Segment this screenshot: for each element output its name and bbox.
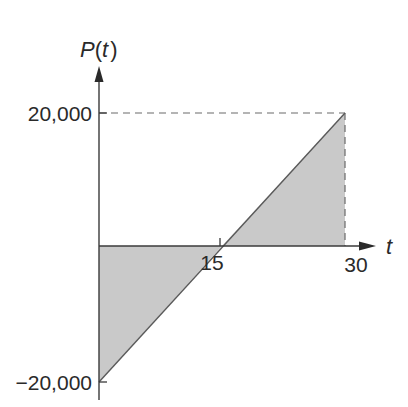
pt-line-chart: P(t) t 20,000 −20,000 15 30 — [0, 0, 408, 407]
x-axis-title: t — [386, 234, 393, 259]
y-axis-arrow-icon — [95, 66, 104, 82]
y-tick-label-neg-20000: −20,000 — [16, 371, 93, 394]
y-axis-title-func: P — [80, 37, 95, 62]
y-axis-title-paren-close: ) — [110, 37, 117, 62]
y-axis-title-var: t — [102, 37, 109, 62]
x-axis-arrow-icon — [359, 242, 376, 251]
y-axis-title: P(t) — [80, 37, 117, 62]
x-tick-label-30: 30 — [344, 253, 367, 276]
x-tick-label-15: 15 — [200, 251, 223, 274]
y-tick-label-20000: 20,000 — [28, 102, 92, 125]
